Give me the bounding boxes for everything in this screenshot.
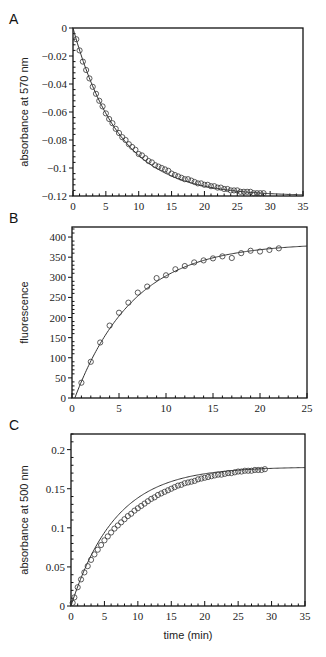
y-tick-label: 0.2: [51, 444, 65, 456]
data-point: [119, 520, 124, 525]
data-point: [172, 172, 177, 177]
y-tick-label: 0: [60, 600, 66, 612]
x-tick-label: 25: [302, 402, 314, 414]
fit-curve: [75, 246, 307, 398]
panel-a: 051015202530350−0.02−0.04−0.06−0.08−0.1−…: [9, 11, 309, 212]
panel-letter: C: [9, 417, 19, 433]
data-point: [199, 476, 204, 481]
data-point: [185, 177, 190, 182]
data-point: [112, 526, 117, 531]
y-tick-label: 300: [50, 271, 67, 283]
panel-letter: B: [9, 210, 18, 226]
x-tick-label: 20: [255, 402, 267, 414]
y-tick-label: 0: [62, 22, 68, 34]
data-point: [267, 247, 272, 252]
data-point: [209, 474, 214, 479]
x-tick-label: 35: [298, 200, 310, 212]
data-point: [135, 290, 140, 295]
y-tick-label: −0.08: [42, 134, 68, 146]
y-tick-label: 350: [50, 251, 67, 263]
x-axis-label: time (min): [164, 629, 213, 641]
data-point: [139, 153, 144, 158]
y-tick-label: 50: [55, 372, 67, 384]
y-axis-label: fluorescence: [18, 281, 30, 343]
plot-frame: [71, 434, 305, 606]
x-tick-label: 20: [199, 610, 211, 622]
data-point: [182, 481, 187, 486]
x-tick-label: 30: [266, 610, 278, 622]
x-tick-label: 10: [133, 200, 145, 212]
data-point: [259, 467, 264, 472]
x-tick-label: 20: [199, 200, 211, 212]
x-tick-label: 10: [161, 402, 173, 414]
data-point: [189, 178, 194, 183]
data-point: [225, 186, 230, 191]
data-point: [202, 475, 207, 480]
plot-frame: [72, 227, 307, 398]
y-tick-label: −0.04: [42, 78, 68, 90]
y-tick-label: 0.1: [51, 522, 65, 534]
data-point: [222, 471, 227, 476]
data-point: [169, 486, 174, 491]
y-tick-label: −0.06: [42, 106, 68, 118]
y-tick-label: −0.1: [47, 162, 67, 174]
data-point: [179, 482, 184, 487]
data-point: [159, 491, 164, 496]
data-point: [162, 167, 167, 172]
data-point: [122, 517, 127, 522]
y-tick-label: 0.15: [46, 483, 66, 495]
data-point: [229, 470, 234, 475]
data-point: [126, 300, 131, 305]
data-point: [115, 523, 120, 528]
data-point: [165, 488, 170, 493]
panel-c: 0510152025303500.050.10.150.2absorbance …: [9, 417, 311, 641]
y-tick-label: 0: [61, 392, 67, 404]
x-tick-label: 25: [232, 200, 244, 212]
x-tick-label: 5: [103, 200, 109, 212]
x-tick-label: 15: [166, 200, 178, 212]
data-point: [169, 171, 174, 176]
data-point: [172, 485, 177, 490]
data-point: [95, 547, 100, 552]
data-point: [195, 477, 200, 482]
y-tick-label: −0.12: [42, 190, 67, 202]
x-tick-label: 15: [166, 610, 178, 622]
x-tick-label: 0: [70, 200, 76, 212]
y-tick-label: −0.02: [42, 50, 67, 62]
figure: 051015202530350−0.02−0.04−0.06−0.08−0.1−…: [0, 0, 326, 657]
data-point: [189, 479, 194, 484]
data-point: [149, 160, 154, 165]
data-point: [116, 310, 121, 315]
data-point: [154, 275, 159, 280]
x-tick-label: 10: [132, 610, 144, 622]
x-tick-label: 0: [69, 402, 75, 414]
data-point: [166, 168, 171, 173]
data-point: [162, 489, 167, 494]
x-tick-label: 30: [265, 200, 277, 212]
y-tick-label: 200: [50, 312, 67, 324]
data-point: [219, 472, 224, 477]
data-point: [175, 483, 180, 488]
data-point: [92, 552, 97, 557]
y-tick-label: 250: [50, 291, 67, 303]
y-tick-label: 0.05: [46, 561, 66, 573]
data-point: [205, 474, 210, 479]
data-point: [159, 165, 164, 170]
x-tick-label: 5: [102, 610, 108, 622]
data-point: [229, 255, 234, 260]
data-point: [239, 251, 244, 256]
data-point: [185, 480, 190, 485]
x-tick-label: 0: [68, 610, 74, 622]
y-tick-label: 150: [50, 332, 67, 344]
panel-letter: A: [9, 11, 19, 27]
y-axis-label: absorbance at 500 nm: [18, 465, 30, 574]
x-tick-label: 25: [233, 610, 245, 622]
data-point: [143, 156, 148, 161]
data-point: [192, 478, 197, 483]
y-tick-label: 400: [50, 231, 67, 243]
plot-frame: [73, 28, 303, 196]
data-point: [156, 164, 161, 169]
data-point: [120, 135, 125, 140]
data-point: [98, 542, 103, 547]
fit-curve: [71, 468, 305, 606]
